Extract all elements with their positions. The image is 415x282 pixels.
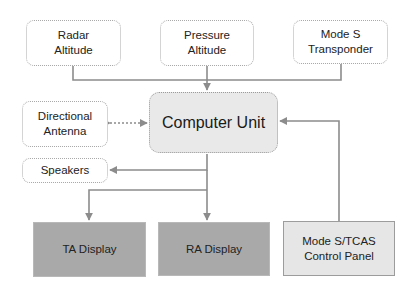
node-label: Antenna [38, 124, 92, 139]
pressure-altitude-node: Pressure Altitude [160, 20, 254, 66]
node-label: Transponder [308, 42, 373, 57]
node-label: Directional [38, 109, 92, 124]
node-label: Control Panel [302, 249, 376, 264]
node-label: Altitude [54, 43, 92, 58]
directional-antenna-node: Directional Antenna [22, 101, 108, 147]
node-label: Computer Unit [162, 115, 265, 130]
radar-altitude-node: Radar Altitude [26, 20, 121, 66]
ra-display-node: RA Display [158, 222, 270, 276]
node-label: Speakers [41, 163, 90, 178]
computer-unit-node: Computer Unit [149, 92, 278, 153]
node-label: TA Display [62, 242, 116, 257]
node-label: Pressure [184, 28, 230, 43]
node-label: RA Display [186, 242, 242, 257]
node-label: Radar [54, 28, 92, 43]
ta-display-node: TA Display [33, 222, 146, 277]
control-panel-node: Mode S/TCAS Control Panel [283, 221, 395, 276]
mode-s-transponder-node: Mode S Transponder [293, 20, 388, 64]
node-label: Mode S/TCAS [302, 234, 376, 249]
speakers-node: Speakers [22, 158, 108, 183]
node-label: Altitude [184, 43, 230, 58]
node-label: Mode S [308, 27, 373, 42]
